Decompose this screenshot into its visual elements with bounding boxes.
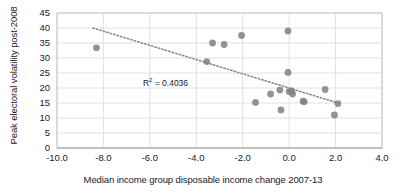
plot-area: [0, 0, 406, 196]
r-squared-annotation: R2 = 0.4036: [143, 77, 188, 88]
data-point: [203, 58, 210, 65]
data-point: [278, 107, 285, 114]
data-point: [285, 69, 292, 76]
scatter-chart-figure: Peak electoral volatility post-2008 Medi…: [0, 0, 406, 196]
data-point: [322, 86, 329, 93]
data-point: [285, 28, 292, 35]
trendline: [93, 28, 339, 103]
data-point: [221, 41, 228, 48]
data-point: [209, 40, 216, 47]
r2-suffix: = 0.4036: [152, 78, 188, 88]
data-point: [301, 98, 308, 105]
data-point: [93, 44, 100, 51]
plot-border: [57, 13, 382, 148]
data-point: [331, 112, 338, 119]
data-point: [238, 32, 245, 39]
data-point: [267, 91, 274, 98]
data-point: [289, 91, 296, 98]
data-point: [334, 100, 341, 107]
data-point: [252, 99, 259, 106]
data-point: [276, 87, 283, 94]
